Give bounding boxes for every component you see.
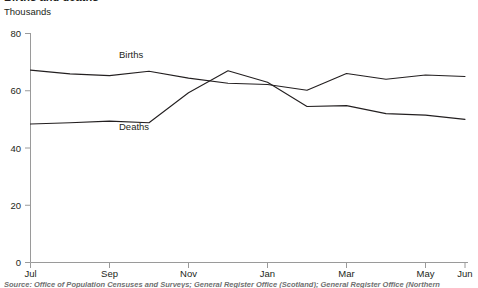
series-label-births: Births — [119, 49, 144, 60]
y-tick-label-0: 0 — [16, 257, 21, 268]
series-label-deaths: Deaths — [119, 121, 149, 132]
x-tick-label-nov: Nov — [180, 268, 197, 279]
x-tick-label-jan: Jan — [260, 268, 275, 279]
y-tick-label-40: 40 — [10, 143, 21, 154]
x-tick-label-sep: Sep — [101, 268, 118, 279]
source-note: Source: Office of Population Censuses an… — [4, 280, 478, 288]
x-axis-ticks — [31, 263, 466, 269]
x-tick-label-jul: Jul — [24, 268, 36, 279]
chart-plot-area: 80 60 40 20 0 Jul Sep Nov Jan Mar May Ju… — [0, 0, 478, 288]
y-axis-ticks — [25, 34, 31, 263]
y-tick-label-20: 20 — [10, 200, 21, 211]
y-tick-label-60: 60 — [10, 85, 21, 96]
x-tick-label-may: May — [417, 268, 435, 279]
x-tick-label-mar: Mar — [338, 268, 354, 279]
y-tick-label-80: 80 — [10, 28, 21, 39]
births-and-deaths-chart: Births and deaths Thousands 80 60 40 20 … — [0, 0, 478, 288]
x-tick-label-jun: Jun — [457, 268, 472, 279]
series-line-deaths — [31, 71, 466, 124]
series-line-births — [31, 70, 466, 90]
